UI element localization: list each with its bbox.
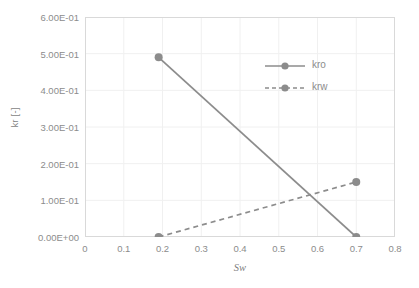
y-tick-label: 3.00E-01: [40, 122, 79, 133]
data-point-krw: [155, 233, 163, 237]
legend-line-swatch-kro: [265, 58, 305, 70]
legend-item-krw[interactable]: krw: [265, 75, 375, 97]
y-axis-title: kr [-]: [9, 88, 20, 148]
x-tick-label: 0.3: [195, 243, 208, 254]
y-tick-label: 4.00E-01: [40, 85, 79, 96]
x-tick-label: 0.1: [117, 243, 130, 254]
legend-item-kro[interactable]: kro: [265, 53, 375, 75]
data-point-kro: [155, 53, 163, 61]
plot-area: 0.00E+001.00E-012.00E-013.00E-014.00E-01…: [85, 17, 395, 237]
y-tick-label: 5.00E-01: [40, 48, 79, 59]
plot-svg: [85, 17, 395, 237]
legend-label-kro: kro: [312, 59, 326, 70]
x-tick-label: 0.5: [272, 243, 285, 254]
y-tick-label: 2.00E-01: [40, 158, 79, 169]
x-axis-title: Sw: [85, 262, 395, 273]
relative-permeability-chart: kr [-] 0.00E+001.00E-012.00E-013.00E-014…: [0, 0, 419, 288]
x-tick-label: 0.6: [311, 243, 324, 254]
y-tick-label: 0.00E+00: [38, 232, 79, 243]
x-tick-label: 0: [82, 243, 87, 254]
x-tick-label: 0.8: [388, 243, 401, 254]
x-tick-label: 0.4: [233, 243, 246, 254]
x-tick-label: 0.7: [350, 243, 363, 254]
legend-line-swatch-krw: [265, 80, 305, 92]
data-point-krw: [352, 178, 360, 186]
y-tick-label: 1.00E-01: [40, 195, 79, 206]
legend-label-krw: krw: [312, 81, 328, 92]
y-tick-label: 6.00E-01: [40, 12, 79, 23]
x-tick-label: 0.2: [156, 243, 169, 254]
chart-legend: kro krw: [265, 53, 375, 97]
